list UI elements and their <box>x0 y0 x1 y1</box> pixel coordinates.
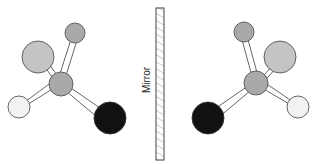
left-molecule <box>8 23 126 134</box>
large-atom <box>264 41 296 73</box>
mirror-label: Mirror <box>141 66 152 93</box>
mirror-plane <box>156 8 164 160</box>
mirror: Mirror <box>141 8 164 160</box>
black-atom <box>192 102 224 134</box>
white-atom <box>8 96 30 118</box>
large-atom <box>22 41 54 73</box>
mirror-diagram: Mirror <box>0 0 316 165</box>
black-atom <box>94 102 126 134</box>
central-atom <box>244 71 268 95</box>
central-atom <box>49 72 73 96</box>
top-atom <box>234 22 254 42</box>
top-atom <box>65 23 85 43</box>
right-molecule <box>192 22 309 134</box>
white-atom <box>287 96 309 118</box>
